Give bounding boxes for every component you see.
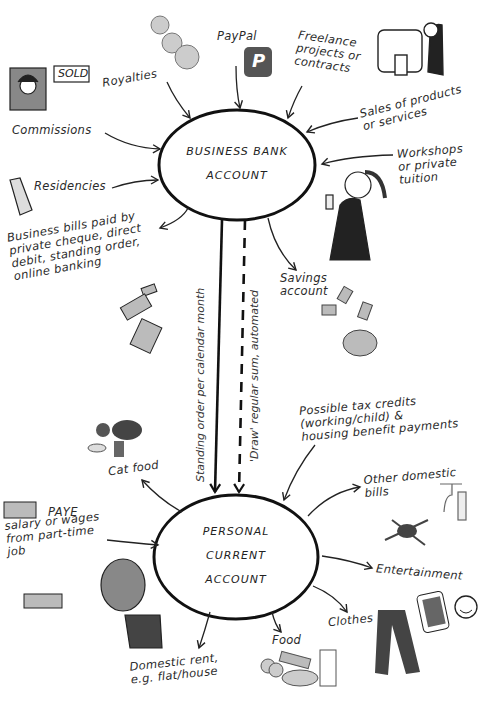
royalties-arrow [167,82,190,118]
commissions-arrow [105,133,160,149]
smiley-icon [455,596,477,618]
draw-arrow [239,220,245,492]
paint-tube-icon [10,178,32,215]
business-label-line1: BUSINESS BANK [167,140,307,164]
sold-sign-text: SOLD [58,67,88,80]
rent-arrow [199,612,210,648]
savings-arrow [268,218,296,270]
clothes-arrow [313,586,347,612]
tablet-icon [416,591,449,634]
cat-food-arrow [142,480,182,512]
other-bills-arrow [308,487,360,516]
cat-icon [88,420,142,457]
groceries-icon [261,650,336,686]
tax-credits-arrow [284,445,315,500]
sales-arrow [307,118,358,132]
paypal-arrow [236,66,240,108]
entertainment-arrow [322,556,372,568]
standing-order-arrow [215,220,222,492]
workshops-label: Workshops or private tuition [396,142,465,187]
piggy-bank-icon [322,286,377,356]
personal-account-label: PERSONAL CURRENT ACCOUNT [166,520,306,592]
paypal-logo-letter: P [252,50,265,71]
standing-order-label: Standing order per calendar month [194,288,207,482]
bills-arrow [160,208,188,228]
phone-woman-icon [101,559,162,648]
banknotes-icon [120,284,162,353]
savings-account-label: Savings account [280,272,328,298]
workshop-person-icon [326,172,385,260]
paypal-label: PayPal [217,30,257,43]
bug-icon [385,520,428,545]
business-account-label: BUSINESS BANK ACCOUNT [167,140,307,188]
commissions-label: Commissions [12,124,91,137]
draw-label: 'Draw' regular sum, automated [248,290,261,462]
workshops-arrow [322,155,393,164]
coins-icon [151,16,199,69]
personal-label-line1: PERSONAL [166,520,306,544]
personal-label-line3: ACCOUNT [166,568,306,592]
freelance-arrow [288,86,302,118]
trousers-icon [375,610,420,675]
residencies-arrow [112,180,158,188]
food-label: Food [272,634,301,647]
business-label-line2: ACCOUNT [167,164,307,188]
paye-arrow [107,540,158,545]
residencies-label: Residencies [34,180,106,193]
artwork-portrait-icon [10,68,46,110]
food-arrow [272,612,281,632]
personal-label-line2: CURRENT [166,544,306,568]
computer-person-icon [378,23,443,75]
